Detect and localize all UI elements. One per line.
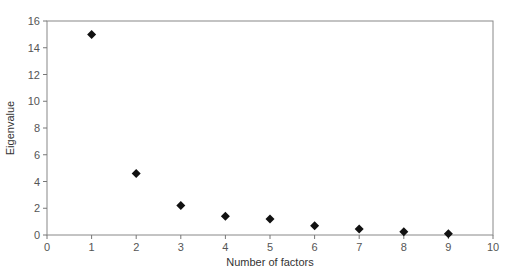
plot-frame xyxy=(47,21,493,235)
x-tick-label: 10 xyxy=(487,241,499,253)
x-tick-label: 1 xyxy=(89,241,95,253)
plot-border xyxy=(47,21,493,235)
x-tick-label: 3 xyxy=(178,241,184,253)
data-point-diamond xyxy=(444,229,453,238)
scree-plot: 0246810121416 012345678910 Number of fac… xyxy=(0,0,514,277)
data-points xyxy=(87,30,453,238)
data-point-diamond xyxy=(132,169,141,178)
x-tick-label: 5 xyxy=(267,241,273,253)
data-point-diamond xyxy=(355,224,364,233)
y-tick-label: 10 xyxy=(28,95,40,107)
y-tick-label: 6 xyxy=(34,149,40,161)
y-axis: 0246810121416 xyxy=(28,15,47,241)
data-point-diamond xyxy=(221,212,230,221)
data-point-diamond xyxy=(176,201,185,210)
y-tick-label: 14 xyxy=(28,42,40,54)
x-tick-label: 6 xyxy=(312,241,318,253)
x-tick-label: 0 xyxy=(44,241,50,253)
data-point-diamond xyxy=(310,221,319,230)
x-tick-label: 4 xyxy=(222,241,228,253)
x-axis-title: Number of factors xyxy=(226,256,314,268)
x-tick-label: 8 xyxy=(401,241,407,253)
y-tick-label: 8 xyxy=(34,122,40,134)
y-tick-label: 2 xyxy=(34,202,40,214)
y-tick-label: 0 xyxy=(34,229,40,241)
y-tick-label: 4 xyxy=(34,176,40,188)
x-tick-label: 9 xyxy=(445,241,451,253)
x-tick-label: 2 xyxy=(133,241,139,253)
x-tick-label: 7 xyxy=(356,241,362,253)
y-tick-label: 16 xyxy=(28,15,40,27)
y-axis-title: Eigenvalue xyxy=(4,101,16,155)
data-point-diamond xyxy=(266,214,275,223)
x-axis: 012345678910 xyxy=(44,235,499,253)
y-tick-label: 12 xyxy=(28,69,40,81)
data-point-diamond xyxy=(87,30,96,39)
